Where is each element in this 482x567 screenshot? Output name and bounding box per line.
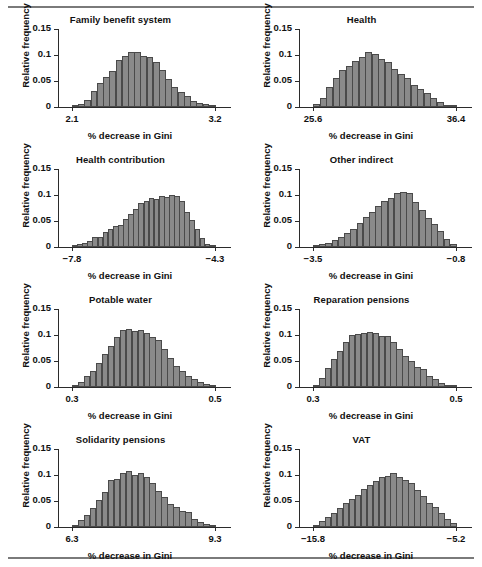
- x-axis-tick: [456, 107, 457, 111]
- y-axis-tick-label: 0: [46, 380, 51, 391]
- histogram-bars: [58, 29, 231, 107]
- x-axis-tick: [72, 247, 73, 251]
- y-axis-tick-label: 0.05: [33, 214, 52, 225]
- x-axis-label: % decrease in Gini: [30, 130, 230, 141]
- x-axis-line: [299, 107, 472, 108]
- y-axis-tick-label: 0.15: [274, 22, 293, 33]
- x-axis-line: [299, 527, 472, 528]
- histogram-panel: Family benefit systemRelative frequency%…: [0, 12, 241, 152]
- x-axis-tick-label: 0.3: [65, 393, 78, 404]
- x-axis-tick-label: 36.4: [447, 113, 466, 124]
- y-axis-tick: 0: [54, 387, 58, 388]
- x-axis-tick: [215, 107, 216, 111]
- y-axis-tick-label: 0.15: [33, 162, 52, 173]
- x-axis-tick: [215, 387, 216, 391]
- x-axis-label: % decrease in Gini: [271, 130, 471, 141]
- x-axis-tick-label: −5.2: [447, 533, 466, 544]
- y-axis-tick-label: 0.05: [274, 354, 293, 365]
- y-axis-tick-label: 0: [287, 380, 292, 391]
- histogram-bars: [299, 169, 472, 247]
- plot-area: 00.050.10.156.39.3: [58, 449, 231, 527]
- x-axis-line: [58, 387, 231, 388]
- histogram-panel: HealthRelative frequency% decrease in Gi…: [241, 12, 482, 152]
- y-axis-label: Relative frequency: [20, 278, 31, 374]
- x-axis-line: [58, 247, 231, 248]
- y-axis-tick-label: 0.15: [33, 302, 52, 313]
- y-axis-tick: 0: [295, 247, 299, 248]
- plot-area: 00.050.10.150.30.5: [58, 309, 231, 387]
- y-axis-label: Relative frequency: [261, 278, 272, 374]
- x-axis-tick-label: 0.3: [306, 393, 319, 404]
- x-axis-label: % decrease in Gini: [271, 270, 471, 281]
- x-axis-tick: [313, 387, 314, 391]
- x-axis-tick: [72, 527, 73, 531]
- y-axis-tick-label: 0.15: [33, 22, 52, 33]
- histogram-bars: [58, 169, 231, 247]
- x-axis-tick-label: 0.5: [208, 393, 221, 404]
- x-axis-tick: [313, 247, 314, 251]
- x-axis-label: % decrease in Gini: [30, 410, 230, 421]
- y-axis-tick-label: 0.1: [279, 328, 292, 339]
- y-axis-tick: 0: [295, 107, 299, 108]
- y-axis-tick-label: 0.05: [274, 214, 293, 225]
- y-axis-tick-label: 0: [46, 240, 51, 251]
- y-axis-tick: 0: [295, 527, 299, 528]
- y-axis-tick-label: 0.1: [38, 328, 51, 339]
- histogram-panel: VATRelative frequency% decrease in Gini0…: [241, 432, 482, 567]
- y-axis-tick-label: 0.1: [279, 188, 292, 199]
- histogram-panel-grid: Family benefit systemRelative frequency%…: [0, 12, 482, 554]
- plot-area: 00.050.10.1525.636.4: [299, 29, 472, 107]
- x-axis-label: % decrease in Gini: [271, 410, 471, 421]
- x-axis-tick-label: −4.3: [206, 253, 225, 264]
- y-axis-tick-label: 0.05: [33, 74, 52, 85]
- y-axis-tick-label: 0: [46, 520, 51, 531]
- y-axis-tick-label: 0.05: [33, 494, 52, 505]
- x-axis-tick-label: 25.6: [304, 113, 323, 124]
- x-axis-tick: [313, 527, 314, 531]
- y-axis-tick: 0: [295, 387, 299, 388]
- plot-area: 00.050.10.150.30.5: [299, 309, 472, 387]
- y-axis-tick-label: 0.1: [38, 188, 51, 199]
- x-axis-line: [299, 387, 472, 388]
- x-axis-line: [299, 247, 472, 248]
- y-axis-tick: 0: [54, 247, 58, 248]
- x-axis-tick-label: 3.2: [208, 113, 221, 124]
- histogram-panel: Potable waterRelative frequency% decreas…: [0, 292, 241, 432]
- x-axis-line: [58, 527, 231, 528]
- x-axis-tick: [456, 387, 457, 391]
- y-axis-tick-label: 0.15: [274, 442, 293, 453]
- plot-area: 00.050.10.15−15.8−5.2: [299, 449, 472, 527]
- x-axis-tick-label: 6.3: [65, 533, 78, 544]
- x-axis-tick-label: −7.8: [63, 253, 82, 264]
- histogram-bars: [299, 29, 472, 107]
- x-axis-tick: [456, 527, 457, 531]
- y-axis-tick-label: 0.15: [274, 302, 293, 313]
- histogram-panel: Other indirectRelative frequency% decrea…: [241, 152, 482, 292]
- y-axis-tick: 0: [54, 107, 58, 108]
- plot-area: 00.050.10.15−7.8−4.3: [58, 169, 231, 247]
- x-axis-tick: [313, 107, 314, 111]
- y-axis-tick: 0: [54, 527, 58, 528]
- y-axis-tick-label: 0: [287, 520, 292, 531]
- top-divider-rule: [8, 6, 474, 8]
- histogram-panel: Reparation pensionsRelative frequency% d…: [241, 292, 482, 432]
- plot-area: 00.050.10.15−3.5−0.8: [299, 169, 472, 247]
- y-axis-label: Relative frequency: [20, 138, 31, 234]
- y-axis-label: Relative frequency: [20, 418, 31, 514]
- x-axis-tick-label: −0.8: [447, 253, 466, 264]
- x-axis-label: % decrease in Gini: [30, 550, 230, 561]
- x-axis-tick-label: 0.5: [449, 393, 462, 404]
- y-axis-tick-label: 0: [287, 240, 292, 251]
- y-axis-tick-label: 0.1: [38, 48, 51, 59]
- x-axis-tick: [456, 247, 457, 251]
- y-axis-tick-label: 0: [287, 100, 292, 111]
- y-axis-tick-label: 0.1: [279, 468, 292, 479]
- x-axis-tick: [215, 527, 216, 531]
- plot-area: 00.050.10.152.13.2: [58, 29, 231, 107]
- x-axis-label: % decrease in Gini: [30, 270, 230, 281]
- y-axis-tick-label: 0.05: [33, 354, 52, 365]
- y-axis-label: Relative frequency: [20, 0, 31, 94]
- y-axis-label: Relative frequency: [261, 138, 272, 234]
- y-axis-tick-label: 0.1: [279, 48, 292, 59]
- y-axis-tick-label: 0.05: [274, 494, 293, 505]
